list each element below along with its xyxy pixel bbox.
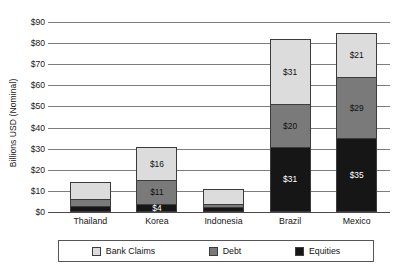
y-axis-tick-label: $0	[0, 207, 45, 217]
bar-segment-value-label: $4	[152, 204, 161, 212]
legend-item-bank-claims: Bank Claims	[92, 246, 155, 256]
y-axis-tick-label: $50	[0, 101, 45, 111]
y-axis-tick-label: $60	[0, 80, 45, 90]
y-axis-tick-mark	[48, 128, 57, 129]
bar-segment	[70, 182, 111, 199]
bar-segment: $20	[270, 104, 311, 146]
legend-label-bank-claims: Bank Claims	[106, 246, 155, 256]
y-axis-tick-mark	[48, 149, 57, 150]
bar-group	[70, 182, 111, 212]
bar-segment-value-label: $21	[350, 51, 364, 59]
y-axis-tick-mark	[48, 43, 57, 44]
bar-segment: $21	[336, 33, 377, 77]
bar-segment: $29	[336, 77, 377, 138]
bar-group: $16$11$4	[136, 147, 177, 212]
bar-segment-value-label: $29	[350, 104, 364, 112]
bar-group: $21$29$35	[336, 33, 377, 212]
y-axis-tick-mark	[48, 64, 57, 65]
chart-legend: Bank Claims Debt Equities	[58, 240, 374, 262]
y-axis-tick-label: $20	[0, 165, 45, 175]
bar-segment: $35	[336, 138, 377, 212]
bar-segment-value-label: $35	[350, 171, 364, 179]
bar-segment-value-label: $20	[283, 122, 297, 130]
y-axis-tick-mark	[48, 106, 57, 107]
bar-segment: $31	[270, 39, 311, 104]
bar-segment-value-label: $11	[150, 188, 163, 196]
x-axis-baseline	[48, 212, 390, 213]
y-axis-tick-label: $40	[0, 123, 45, 133]
legend-item-debt: Debt	[209, 246, 242, 256]
bar-segment: $4	[136, 204, 177, 212]
stacked-bar-chart: Billions USD (Nominal) $0$10$20$30$40$50…	[0, 0, 395, 276]
plot-area: $0$10$20$30$40$50$60$70$80$90 $16$11$4$3…	[57, 22, 390, 212]
bar-segment: $31	[270, 147, 311, 212]
y-axis-tick-mark	[48, 85, 57, 86]
bar-segment-value-label: $31	[283, 175, 297, 183]
y-axis-tick-mark	[48, 22, 57, 23]
bar-group	[203, 189, 244, 212]
legend-label-equities: Equities	[309, 246, 340, 256]
y-axis-tick-label: $10	[0, 186, 45, 196]
bar-segment: $11	[136, 180, 177, 203]
y-axis-tick-label: $70	[0, 59, 45, 69]
legend-item-equities: Equities	[295, 246, 340, 256]
bars-layer: $16$11$4$31$20$31$21$29$35	[57, 22, 390, 212]
legend-swatch-icon-bank-claims	[92, 247, 101, 256]
y-axis-tick-label: $30	[0, 144, 45, 154]
bar-segment: $16	[136, 147, 177, 181]
y-axis-tick-label: $80	[0, 38, 45, 48]
y-axis-tick-mark	[48, 191, 57, 192]
bar-segment-value-label: $31	[283, 68, 297, 76]
legend-swatch-icon-equities	[295, 247, 304, 256]
bar-group: $31$20$31	[270, 39, 311, 212]
legend-swatch-icon-debt	[209, 247, 218, 256]
y-axis-tick-label: $90	[0, 17, 45, 27]
bar-segment	[203, 189, 244, 204]
x-axis-tick-label: Mexico	[318, 216, 395, 226]
y-axis-tick-mark	[48, 170, 57, 171]
bar-segment-value-label: $16	[150, 160, 164, 168]
legend-label-debt: Debt	[223, 246, 242, 256]
